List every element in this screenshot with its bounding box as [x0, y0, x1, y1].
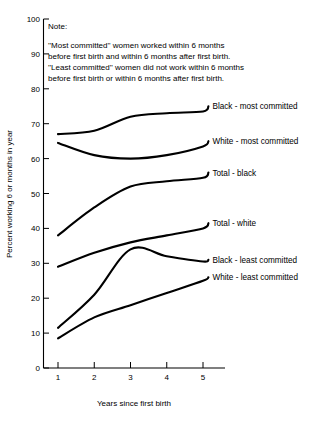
line-chart: Note: ''Most committed'' women worked wi…	[0, 0, 313, 423]
x-axis-title: Years since first birth	[97, 399, 171, 408]
y-tick-label: 50	[31, 190, 40, 199]
y-tick-label: 100	[27, 15, 41, 24]
series-label: Black - least committed	[212, 256, 297, 265]
note-line-3: ''Least committed'' women did not work w…	[48, 63, 244, 72]
series-label: White - most committed	[212, 137, 298, 146]
x-tick-label: 4	[165, 373, 170, 382]
y-tick-label: 40	[31, 224, 40, 233]
series-labels: Black - most committedWhite - most commi…	[212, 102, 298, 282]
y-tick-label: 80	[31, 85, 40, 94]
y-tick-label: 60	[31, 155, 40, 164]
note-heading: Note:	[48, 22, 67, 31]
note-line-1: ''Most committed'' women worked within 6…	[48, 41, 224, 50]
y-tick-label: 0	[36, 364, 41, 373]
series-line	[58, 106, 208, 134]
chart-container: Note: ''Most committed'' women worked wi…	[0, 0, 313, 423]
y-tick-label: 20	[31, 294, 40, 303]
x-tick-label: 3	[128, 373, 133, 382]
y-tick-label: 30	[31, 259, 40, 268]
x-tick-label: 2	[92, 373, 97, 382]
x-tick-label: 5	[201, 373, 206, 382]
y-axis-title: Percent working 6 or months in year	[5, 130, 14, 258]
series-line	[58, 173, 208, 236]
x-tick-label: 1	[56, 373, 61, 382]
y-axis-ticks: 0102030405060708090100	[27, 15, 49, 373]
series-label: White - least committed	[212, 273, 298, 282]
series-label: Total - black	[212, 169, 257, 178]
y-tick-label: 10	[31, 329, 40, 338]
y-tick-label: 70	[31, 120, 40, 129]
note-block: Note: ''Most committed'' women worked wi…	[48, 22, 244, 83]
series-label: Total - white	[212, 219, 256, 228]
series-layer	[58, 106, 208, 338]
series-label: Black - most committed	[212, 102, 298, 111]
series-line	[58, 141, 208, 158]
note-line-4: before first birth or within 6 months af…	[48, 74, 224, 83]
y-tick-label: 90	[31, 50, 40, 59]
x-axis-ticks: 12345	[56, 362, 206, 382]
note-line-2: before first birth and within 6 months a…	[48, 52, 230, 61]
